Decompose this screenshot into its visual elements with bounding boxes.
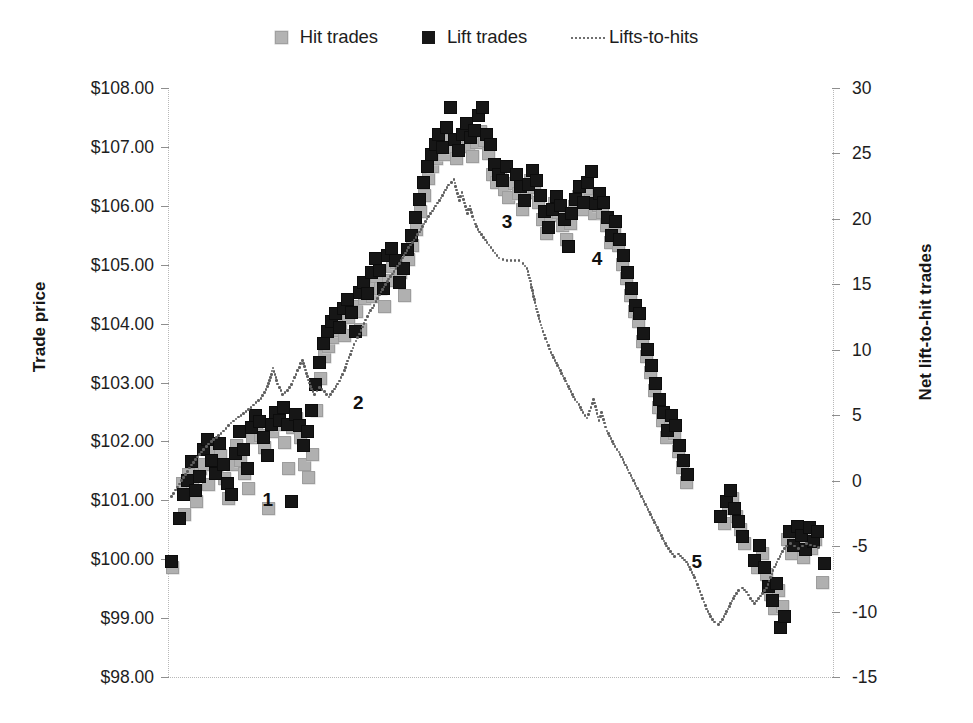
lifts-to-hits-line-dot (333, 388, 336, 391)
lifts-to-hits-line-dot (391, 273, 394, 276)
legend-item-lifts-to-hits: Lifts-to-hits (571, 26, 698, 48)
lifts-to-hits-line-dot (502, 258, 505, 261)
lifts-to-hits-line-dot (470, 211, 473, 214)
lifts-to-hits-line-dot (186, 470, 189, 473)
lifts-to-hits-line-dot (701, 597, 704, 600)
lifts-to-hits-line-dot (539, 320, 542, 323)
lifts-to-hits-line-dot (303, 365, 306, 368)
lifts-to-hits-line-dot (771, 573, 774, 576)
lift-trade-point (333, 321, 346, 334)
y-axis-right-tick (832, 481, 840, 482)
lifts-to-hits-line-dot (602, 418, 605, 421)
lifts-to-hits-line-dot (733, 595, 736, 598)
lift-trade-point (766, 594, 779, 607)
lift-trade-point (257, 431, 270, 444)
lift-trade-point (774, 621, 787, 634)
y-axis-left-tick-label: $103.00 (4, 372, 154, 393)
lifts-to-hits-line-dot (699, 590, 702, 593)
lift-trade-point (714, 510, 727, 523)
lifts-to-hits-line-dot (498, 257, 501, 260)
lifts-to-hits-line-dot (535, 308, 538, 311)
lifts-to-hits-line-dot (767, 583, 770, 586)
lifts-to-hits-line-dot (540, 324, 543, 327)
lifts-to-hits-line-dot (257, 399, 260, 402)
legend-item-hit-trades: Hit trades (275, 26, 378, 48)
lifts-to-hits-line-dot (346, 360, 349, 363)
lifts-to-hits-line-dot (192, 461, 195, 464)
lifts-to-hits-line-dot (789, 542, 792, 545)
lifts-to-hits-line-dot (587, 413, 590, 416)
lifts-to-hits-line-dot (728, 605, 731, 608)
lift-trade-point (417, 176, 430, 189)
lifts-to-hits-line-dot (407, 246, 410, 249)
hit-trade-point (466, 150, 479, 163)
lifts-to-hits-line-dot (220, 432, 223, 435)
y-axis-right-tick (832, 219, 840, 220)
lift-trade-point (373, 264, 386, 277)
lift-trade-point (313, 356, 326, 369)
hit-trade-point (242, 482, 255, 495)
lifts-to-hits-line-dot (225, 427, 228, 430)
lifts-to-hits-line-dot (777, 558, 780, 561)
lifts-to-hits-line-dot (775, 563, 778, 566)
lifts-to-hits-line-dot (373, 304, 376, 307)
lifts-to-hits-line-dot (729, 602, 732, 605)
lift-trade-point (637, 327, 650, 340)
lifts-to-hits-line-dot (773, 566, 776, 569)
lifts-to-hits-line-dot (528, 277, 531, 280)
lifts-to-hits-line-dot (447, 184, 450, 187)
lifts-to-hits-line-dot (433, 207, 436, 210)
lift-trade-point (562, 240, 575, 253)
y-axis-right-tick-label: 30 (852, 78, 871, 99)
lifts-to-hits-line-dot (268, 379, 271, 382)
lifts-to-hits-line-dot (783, 547, 786, 550)
lifts-to-hits-line-dot (440, 197, 443, 200)
lift-trade-point (585, 165, 598, 178)
lifts-to-hits-line-dot (732, 597, 735, 600)
lifts-to-hits-line-dot (431, 210, 434, 213)
y-axis-left-tick (161, 500, 169, 501)
lift-trade-point (681, 468, 694, 481)
lifts-to-hits-line-dot (278, 386, 281, 389)
y-axis-left-tick-label: $108.00 (4, 78, 154, 99)
lifts-to-hits-line-dot (434, 205, 437, 208)
lift-trade-point (305, 404, 318, 417)
lift-trade-point (297, 439, 310, 452)
lift-trade-point (285, 495, 298, 508)
lifts-to-hits-line-dot (755, 600, 758, 603)
lifts-to-hits-line-dot (344, 366, 347, 369)
lifts-to-hits-line-dot (765, 587, 768, 590)
lifts-to-hits-line-dot (200, 451, 203, 454)
lifts-to-hits-line-dot (265, 388, 268, 391)
hit-trade-point (302, 471, 315, 484)
lifts-to-hits-line-dot (776, 561, 779, 564)
lifts-to-hits-line-dot (170, 495, 173, 498)
lift-trade-point (518, 194, 531, 207)
lifts-to-hits-line-dot (263, 391, 266, 394)
lift-trade-point (811, 525, 824, 538)
chart-annotation-1: 1 (262, 489, 273, 511)
lift-trade-point (597, 196, 610, 209)
lifts-to-hits-line-dot (331, 390, 334, 393)
lifts-to-hits-line-dot (731, 600, 734, 603)
y-axis-left-tick-label: $100.00 (4, 549, 154, 570)
lifts-to-hits-line-dot (518, 259, 521, 262)
lifts-to-hits-line-dot (510, 259, 513, 262)
lift-trade-point (361, 287, 374, 300)
lifts-to-hits-line-dot (543, 334, 546, 337)
lifts-to-hits-line-dot (737, 589, 740, 592)
lifts-to-hits-line-dot (441, 194, 444, 197)
y-axis-left-tick (161, 383, 169, 384)
lifts-to-hits-line-dot (721, 618, 724, 621)
lifts-to-hits-line-dot (275, 379, 278, 382)
lifts-to-hits-line-dot (586, 417, 589, 420)
lifts-to-hits-line-dot (527, 270, 530, 273)
dotted-line-icon (571, 32, 605, 43)
lifts-to-hits-line-dot (595, 409, 598, 412)
lift-trade-point (225, 488, 238, 501)
lifts-to-hits-line-dot (376, 297, 379, 300)
lifts-to-hits-line-dot (395, 267, 398, 270)
lift-trade-point (409, 211, 422, 224)
lifts-to-hits-line-dot (450, 181, 453, 184)
lifts-to-hits-line-dot (809, 544, 812, 547)
